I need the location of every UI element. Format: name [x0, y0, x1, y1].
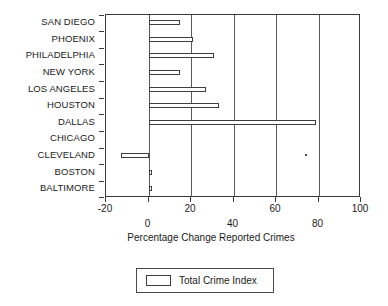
x-axis-tick-60 [275, 197, 276, 202]
legend-label-total-crime-index: Total Crime Index [179, 275, 257, 286]
y-axis-label-cleveland: CLEVELAND [38, 147, 95, 164]
bar-row [106, 48, 359, 65]
bar-row [106, 82, 359, 99]
bar-phoenix [149, 37, 194, 42]
bar-new-york [149, 70, 181, 75]
y-axis-tick [99, 114, 104, 115]
chart-legend: Total Crime Index [136, 268, 274, 293]
bar-chart-figure: SAN DIEGOPHOENIXPHILADELPHIANEW YORKLOS … [0, 0, 388, 306]
bar-philadelphia [149, 53, 215, 58]
bar-san-diego [149, 20, 181, 25]
y-axis-label-san-diego: SAN DIEGO [41, 14, 95, 31]
y-axis-tick [99, 164, 104, 165]
bar-cleveland [121, 153, 149, 158]
x-axis-tick-0 [148, 197, 149, 202]
y-axis-tick [99, 148, 104, 149]
y-axis-label-dallas: DALLAS [58, 114, 95, 131]
y-axis-tick [99, 15, 104, 16]
y-axis-tick [99, 48, 104, 49]
x-axis-tick-40 [233, 197, 234, 202]
y-axis-tick [99, 98, 104, 99]
y-axis-tick [99, 81, 104, 82]
plot-area [105, 14, 360, 197]
y-axis-tick [99, 64, 104, 65]
y-axis-label-los-angeles: LOS ANGELES [28, 81, 95, 98]
bar-houston [149, 103, 219, 108]
y-axis-tick [99, 131, 104, 132]
bar-row [106, 15, 359, 32]
bar-row [106, 148, 359, 165]
x-axis-label-0: 0 [145, 218, 151, 229]
y-axis-tick [99, 31, 104, 32]
x-axis-tick-80 [318, 197, 319, 202]
bar-baltimore [149, 186, 152, 191]
x-axis-tick-100 [360, 197, 361, 202]
bar-boston [149, 170, 152, 175]
x-axis-tick-20 [190, 197, 191, 202]
x-axis-title: Percentage Change Reported Crimes [0, 232, 388, 243]
x-axis-label-100: 100 [352, 203, 369, 214]
y-axis-label-new-york: NEW YORK [43, 64, 95, 81]
bar-row [106, 131, 359, 148]
legend-swatch-total-crime-index [146, 275, 171, 286]
x-axis-label-20: 20 [184, 203, 195, 214]
bar-row [106, 165, 359, 182]
x-axis-title-text: Percentage Change Reported Crimes [127, 232, 294, 243]
raster-speck [305, 154, 307, 156]
y-axis-label-chicago: CHICAGO [50, 130, 95, 147]
y-axis-label-houston: HOUSTON [47, 97, 95, 114]
bar-row [106, 32, 359, 49]
bar-los-angeles [149, 87, 206, 92]
y-axis-tick [99, 181, 104, 182]
x-axis-label-80: 80 [312, 218, 323, 229]
x-axis-label-60: 60 [269, 203, 280, 214]
y-axis-category-labels: SAN DIEGOPHOENIXPHILADELPHIANEW YORKLOS … [0, 14, 101, 197]
x-axis-tick--20 [105, 197, 106, 202]
bar-dallas [149, 120, 317, 125]
y-axis-label-philadelphia: PHILADELPHIA [26, 47, 95, 64]
y-axis-label-phoenix: PHOENIX [52, 31, 95, 48]
y-axis-tick [99, 197, 104, 198]
x-axis-label--20: -20 [98, 203, 112, 214]
bar-row [106, 98, 359, 115]
x-axis-label-40: 40 [227, 218, 238, 229]
bar-row [106, 115, 359, 132]
bar-row [106, 65, 359, 82]
bar-row [106, 181, 359, 198]
y-axis-label-boston: BOSTON [54, 164, 95, 181]
y-axis-label-baltimore: BALTIMORE [40, 180, 95, 197]
